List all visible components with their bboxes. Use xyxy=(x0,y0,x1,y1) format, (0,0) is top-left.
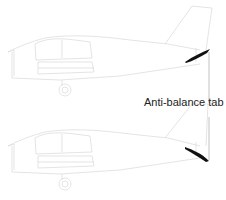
upper-aircraft xyxy=(8,6,212,96)
lower-aircraft xyxy=(8,104,209,190)
anti-balance-tab-upper xyxy=(185,49,210,63)
anti-balance-tab-label: Anti-balance tab xyxy=(144,96,224,108)
